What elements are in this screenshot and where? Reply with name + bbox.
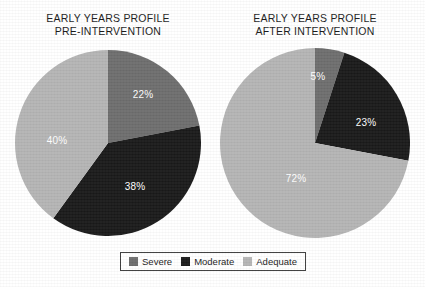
chart-title-line-2: AFTER INTERVENTION [222,25,408,38]
legend-swatch-severe [129,257,138,266]
pie-label-moderate-pre: 38% [125,181,146,192]
pie-label-adequate-pre: 40% [47,135,68,146]
pie-chart-pre-intervention [15,50,201,236]
chart-title-pre-intervention: EARLY YEARS PROFILE PRE-INTERVENTION [18,12,198,38]
legend-item-severe: Severe [129,257,172,267]
legend-label-moderate: Moderate [194,257,234,267]
pie-label-adequate-after: 72% [286,173,307,184]
chart-title-line-1: EARLY YEARS PROFILE [18,12,198,25]
chart-legend: Severe Moderate Adequate [120,252,306,271]
pie-label-severe-after: 5% [311,71,326,82]
chart-title-line-1: EARLY YEARS PROFILE [222,12,408,25]
legend-label-adequate: Adequate [256,257,297,267]
figure-canvas: EARLY YEARS PROFILE PRE-INTERVENTION 22%… [0,0,425,287]
legend-swatch-moderate [181,257,190,266]
chart-title-line-2: PRE-INTERVENTION [18,25,198,38]
legend-label-severe: Severe [142,257,172,267]
legend-item-moderate: Moderate [181,257,234,267]
pie-label-severe-pre: 22% [133,89,154,100]
legend-item-adequate: Adequate [243,257,297,267]
chart-title-after-intervention: EARLY YEARS PROFILE AFTER INTERVENTION [222,12,408,38]
pie-label-moderate-after: 23% [356,117,377,128]
legend-swatch-adequate [243,257,252,266]
